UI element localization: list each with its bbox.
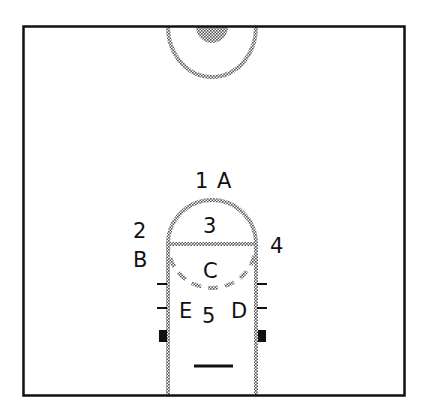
center-circle-fill (196, 27, 228, 43)
label-position-D: D (231, 299, 247, 323)
label-position-C: C (203, 259, 218, 283)
court-diagram: 1 A 2 B 3 4 C E 5 D (0, 0, 431, 417)
label-position-B: B (133, 248, 147, 272)
label-position-A: A (217, 169, 232, 193)
block-left (159, 330, 167, 342)
label-position-2: 2 (133, 219, 146, 243)
label-position-1: 1 (195, 169, 208, 193)
label-position-4: 4 (270, 234, 283, 258)
label-position-5: 5 (202, 304, 215, 328)
court-boundary (24, 27, 405, 396)
label-position-E: E (179, 299, 192, 323)
label-position-3: 3 (203, 214, 216, 238)
block-right (258, 330, 266, 342)
